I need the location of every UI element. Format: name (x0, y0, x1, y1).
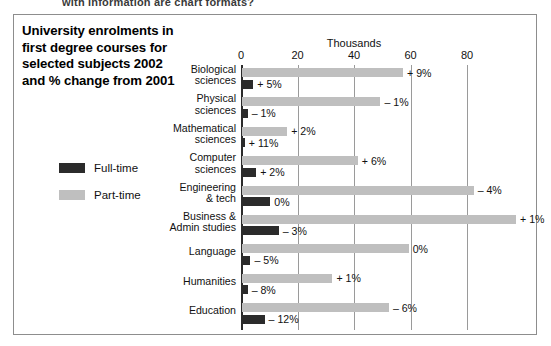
bar-change-label: – 1% (384, 96, 408, 108)
bar-part-time: + 1% (242, 274, 332, 283)
bar-part-time: + 6% (242, 156, 358, 165)
bar-change-label: – 3% (283, 225, 307, 237)
bar-part-time: + 1% (242, 215, 516, 224)
bar-group: + 1%– 8% (242, 271, 332, 295)
x-tick-label-60: 60 (404, 49, 416, 61)
bar-group: – 4%0% (242, 183, 474, 207)
bar-change-label: + 5% (257, 78, 281, 90)
bar-change-label: + 6% (362, 155, 386, 167)
bar-part-time: 0% (242, 244, 409, 253)
bar-change-label: + 2% (260, 166, 284, 178)
bar-part-time: – 4% (242, 186, 474, 195)
chart-row: Engineering& tech– 4%0% (14, 183, 551, 212)
category-label-engineering-tech: Engineering& tech (116, 182, 236, 205)
bar-change-label: + 2% (291, 125, 315, 137)
chart-row: Biologicalsciences+ 9%+ 5% (14, 65, 551, 94)
bar-part-time: + 2% (242, 127, 287, 136)
chart-title-line-1: University enrolments in (22, 23, 217, 40)
bar-group: + 6%+ 2% (242, 153, 358, 177)
bar-change-label: – 12% (269, 313, 299, 325)
x-tick-label-40: 40 (348, 49, 360, 61)
clipped-header-text: with information are chart formats? (62, 0, 292, 8)
bar-part-time: – 1% (242, 97, 380, 106)
category-label-mathematical-sciences: Mathematicalsciences (116, 123, 236, 146)
chart-row: Mathematicalsciences+ 2%+ 11% (14, 124, 551, 153)
bar-full-time: 0% (242, 197, 270, 206)
category-label-language: Language (116, 246, 236, 257)
bar-change-label: – 4% (478, 184, 502, 196)
category-label-computer-sciences: Computersciences (116, 152, 236, 175)
bar-change-label: + 9% (407, 67, 431, 79)
bar-change-label: – 6% (393, 302, 417, 314)
bar-group: + 9%+ 5% (242, 65, 403, 89)
x-tick-label-20: 20 (291, 49, 303, 61)
bar-group: – 6%– 12% (242, 300, 389, 324)
bar-full-time: + 11% (242, 138, 245, 147)
bar-group: 0%– 5% (242, 241, 409, 265)
x-tick-label-80: 80 (461, 49, 473, 61)
bar-part-time: + 9% (242, 68, 403, 77)
bar-full-time: – 3% (242, 226, 279, 235)
bar-change-label: + 1% (520, 213, 544, 225)
category-label-business-admin-studies: Business &Admin studies (116, 211, 236, 234)
chart-title-line-2: first degree courses for (22, 40, 217, 57)
bar-group: – 1%– 1% (242, 94, 380, 118)
category-label-physical-sciences: Physicalsciences (116, 93, 236, 116)
bar-change-label: + 11% (249, 137, 279, 149)
chart-row: Computersciences+ 6%+ 2% (14, 153, 551, 182)
x-tick-label-0: 0 (238, 49, 244, 61)
chart-row: Education– 6%– 12% (14, 300, 551, 329)
bar-change-label: – 8% (252, 284, 276, 296)
bar-full-time: – 5% (242, 256, 250, 265)
chart-rows: Biologicalsciences+ 9%+ 5%Physicalscienc… (14, 65, 551, 330)
bar-full-time: – 8% (242, 285, 248, 294)
bar-change-label: – 1% (252, 107, 276, 119)
x-axis-title: Thousands (327, 37, 381, 49)
bar-group: + 1%– 3% (242, 212, 516, 236)
chart-row: Physicalsciences– 1%– 1% (14, 94, 551, 123)
bar-full-time: + 5% (242, 80, 253, 89)
chart-row: Language0%– 5% (14, 241, 551, 270)
chart-row: Humanities+ 1%– 8% (14, 271, 551, 300)
bar-change-label: 0% (413, 243, 428, 255)
bar-part-time: – 6% (242, 303, 389, 312)
bar-full-time: – 1% (242, 109, 248, 118)
bar-group: + 2%+ 11% (242, 124, 287, 148)
bar-full-time: + 2% (242, 168, 256, 177)
category-label-education: Education (116, 305, 236, 316)
bar-change-label: 0% (274, 196, 289, 208)
bar-change-label: – 5% (254, 254, 278, 266)
chart-figure-frame: University enrolments in first degree co… (13, 14, 537, 335)
bar-full-time: – 12% (242, 315, 265, 324)
category-label-biological-sciences: Biologicalsciences (116, 64, 236, 87)
bar-change-label: + 1% (336, 272, 360, 284)
category-label-humanities: Humanities (116, 276, 236, 287)
chart-row: Business &Admin studies+ 1%– 3% (14, 212, 551, 241)
